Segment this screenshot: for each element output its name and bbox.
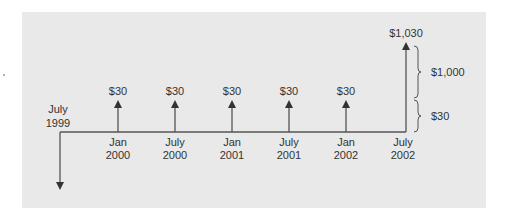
- inflow-year: 2001: [220, 149, 244, 161]
- inflow-4: $30 July 2001: [277, 85, 301, 161]
- inflow-month: Jan: [223, 136, 241, 148]
- brace-icon: [414, 100, 421, 132]
- final-amount: $1,030: [389, 27, 423, 39]
- inflow-year: 2000: [106, 149, 130, 161]
- coupon-label: $30: [431, 110, 449, 122]
- brace-icon: [414, 46, 421, 98]
- cash-flow-diagram: July 1999 $30 Jan 2000 $30 July 2000 $30…: [0, 0, 507, 222]
- inflow-1: $30 Jan 2000: [106, 85, 130, 161]
- inflow-month: Jan: [109, 136, 127, 148]
- principal-label: $1,000: [431, 66, 465, 78]
- inflow-year: 2002: [391, 149, 415, 161]
- inflow-amount: $30: [337, 85, 355, 97]
- inflow-3: $30 Jan 2001: [220, 85, 244, 161]
- inflow-month: Jan: [337, 136, 355, 148]
- initial-outflow: July 1999: [46, 103, 70, 186]
- coupon-brace: $30: [414, 100, 449, 132]
- start-date-year: 1999: [46, 117, 70, 129]
- inflow-amount: $30: [166, 85, 184, 97]
- inflow-5: $30 Jan 2002: [334, 85, 358, 161]
- start-date-month: July: [48, 103, 68, 115]
- inflow-year: 2000: [163, 149, 187, 161]
- inflow-year: 2002: [334, 149, 358, 161]
- inflow-amount: $30: [109, 85, 127, 97]
- principal-brace: $1,000: [414, 46, 465, 98]
- inflow-month: July: [393, 136, 413, 148]
- inflow-2: $30 July 2000: [163, 85, 187, 161]
- inflow-month: July: [165, 136, 185, 148]
- inflow-amount: $30: [280, 85, 298, 97]
- inflow-year: 2001: [277, 149, 301, 161]
- inflow-amount: $30: [223, 85, 241, 97]
- inflow-month: July: [279, 136, 299, 148]
